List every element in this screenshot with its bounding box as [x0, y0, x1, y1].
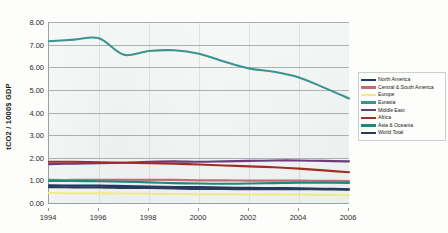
- series-lines: [49, 22, 349, 203]
- x-axis-tick-mark: [48, 208, 49, 211]
- legend-item[interactable]: Asia & Oceania: [361, 122, 445, 130]
- x-axis-tick-mark: [198, 208, 199, 211]
- legend-color-swatch: [361, 132, 376, 135]
- x-axis-tick-label: 2002: [240, 213, 257, 222]
- series-line: [49, 37, 349, 98]
- x-axis-tick-label: 1996: [90, 213, 107, 222]
- legend-item-label: Eurasia: [378, 100, 395, 105]
- x-axis-tick-label: 2000: [190, 213, 207, 222]
- y-axis-tick-label: 7.00: [29, 40, 44, 49]
- x-axis-tick-label: 2006: [340, 213, 357, 222]
- x-axis-tick-mark: [98, 208, 99, 211]
- legend-item-label: North America: [378, 77, 410, 82]
- y-axis-tick-label: 8.00: [29, 18, 44, 27]
- legend-item[interactable]: Central & South America: [361, 84, 445, 92]
- legend-color-swatch: [361, 94, 376, 97]
- legend-item-label: Asia & Oceania: [378, 123, 413, 128]
- series-line: [49, 193, 349, 195]
- legend-item-label: Central & South America: [378, 85, 434, 90]
- chart-container: tCO2 / 1000$ GDP 0.001.002.003.004.005.0…: [0, 0, 448, 233]
- legend-item[interactable]: Middle East: [361, 106, 445, 114]
- y-axis-tick-labels: 0.001.002.003.004.005.006.007.008.00: [0, 22, 48, 203]
- x-axis-tick-label: 1998: [140, 213, 157, 222]
- x-axis-tick-mark: [298, 208, 299, 211]
- legend-item-label: Europe: [378, 92, 394, 97]
- legend-color-swatch: [361, 86, 376, 89]
- legend-item[interactable]: World Total: [361, 129, 445, 137]
- legend-item-label: Middle East: [378, 108, 405, 113]
- y-axis-tick-label: 3.00: [29, 131, 44, 140]
- x-axis-tick-label: 2004: [290, 213, 307, 222]
- legend-color-swatch: [361, 101, 376, 104]
- legend-item[interactable]: Africa: [361, 114, 445, 122]
- y-axis-tick-label: 5.00: [29, 85, 44, 94]
- legend-color-swatch: [361, 124, 376, 127]
- y-axis-tick-label: 2.00: [29, 153, 44, 162]
- legend-color-swatch: [361, 79, 376, 82]
- y-axis-tick-label: 1.00: [29, 176, 44, 185]
- plot-area: [48, 22, 349, 204]
- x-axis-tick-mark: [148, 208, 149, 211]
- legend-item[interactable]: Europe: [361, 91, 445, 99]
- y-axis-tick-label: 6.00: [29, 63, 44, 72]
- legend-item-label: World Total: [378, 130, 403, 135]
- legend: North AmericaCentral & South AmericaEuro…: [358, 72, 446, 141]
- legend-color-swatch: [361, 117, 376, 120]
- x-axis-tick-label: 1994: [40, 213, 57, 222]
- legend-item[interactable]: Eurasia: [361, 99, 445, 107]
- legend-item-label: Africa: [378, 115, 391, 120]
- legend-color-swatch: [361, 109, 376, 112]
- y-axis-tick-label: 4.00: [29, 108, 44, 117]
- x-axis-tick-labels: 1994199619982000200220042006: [48, 208, 348, 222]
- x-axis-tick-mark: [348, 208, 349, 211]
- y-axis-tick-label: 0.00: [29, 199, 44, 208]
- legend-item[interactable]: North America: [361, 76, 445, 84]
- x-axis-tick-mark: [248, 208, 249, 211]
